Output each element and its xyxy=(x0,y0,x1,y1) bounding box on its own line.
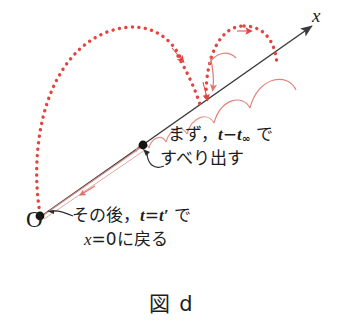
x-axis xyxy=(40,26,312,217)
annotation-second-phase-equals: = xyxy=(145,205,159,225)
big-dotted-arc-ascending xyxy=(37,27,180,214)
annotation-second-phase-var-x: x xyxy=(84,230,92,249)
annotation-second-phase-line1: その後，t=t′ で xyxy=(72,207,191,225)
hop-arc-upper-small xyxy=(209,53,236,64)
second-dotted-arc-descending xyxy=(244,26,277,66)
figure-container: O x まず，t−t∞ で すべり出す その後，t=t′ で x=0に戻る 図 … xyxy=(0,0,343,332)
figure-caption: 図 d xyxy=(0,287,343,317)
annotation-second-phase-suffix: で xyxy=(169,205,191,225)
slip-point-marker xyxy=(139,141,148,150)
annotation-second-phase-prefix: その後， xyxy=(72,205,140,225)
annotation-second-phase-line2: x=0に戻る xyxy=(84,231,168,249)
second-dotted-trajectory xyxy=(203,26,277,98)
origin-label: O xyxy=(26,208,43,232)
hop-arc-6 xyxy=(250,79,296,108)
annotation-first-phase-line2: すべり出す xyxy=(160,150,244,168)
annotation-first-phase-suffix: で xyxy=(251,124,273,144)
pointer-to-slip-point-head xyxy=(143,149,150,156)
x-axis-label: x xyxy=(312,6,320,26)
annotation-first-phase-minus: − xyxy=(223,124,237,144)
annotation-first-phase-subscript-infinity: ∞ xyxy=(242,132,251,144)
hop-arc-5 xyxy=(214,100,250,123)
annotation-first-phase-prefix: まず， xyxy=(168,124,218,144)
annotation-first-phase-line1: まず，t−t∞ で xyxy=(168,126,273,144)
annotation-second-phase-line2-rest: =0に戻る xyxy=(92,229,168,249)
big-dotted-arc-descending xyxy=(178,56,201,108)
x-axis-line xyxy=(40,26,312,217)
annotation-second-phase-var-t-prime: t′ xyxy=(159,206,169,225)
